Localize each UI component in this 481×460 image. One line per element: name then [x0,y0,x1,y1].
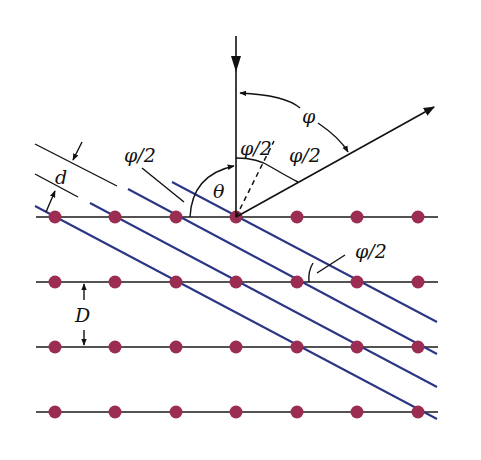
bragg-plane-1 [35,206,437,419]
phi-half-arc-top [236,158,271,167]
phi-half-top-label: φ/2 [240,137,272,159]
incident-arrow-icon [231,56,241,72]
phi-half-right-label: φ/2 [289,144,321,166]
d-label: d [55,166,67,188]
bragg-diffraction-diagram: φ φ/2 φ/2 θ φ/2 d φ/2 D [0,0,481,460]
bragg-plane-4 [172,182,437,322]
phi-arc [240,93,300,108]
phi-label: φ [302,105,316,127]
theta-arc [190,166,234,217]
phi-half-lower-label: φ/2 [355,240,387,262]
D-label: D [74,304,90,326]
phi-half-arc-right [271,167,298,182]
d-spacing-indicator [35,142,117,212]
diffracted-ray [236,107,434,217]
theta-label: θ [213,180,225,202]
phi-half-left-label: φ/2 [124,144,156,166]
phi-half-lower-arc [309,263,313,282]
phi-arc-lower [318,123,348,152]
